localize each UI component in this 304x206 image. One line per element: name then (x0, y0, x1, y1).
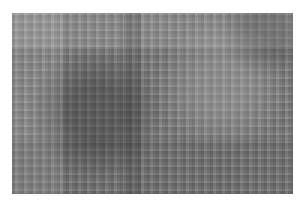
photo (12, 13, 293, 194)
